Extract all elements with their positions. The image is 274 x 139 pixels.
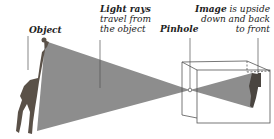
light-rays-label-1: Light rays (100, 4, 151, 14)
pinhole-camera-diagram: Object Light rays travel from the object… (0, 0, 274, 139)
image-label-1: Image is upside (195, 4, 270, 14)
image-label-rest: is upside (227, 4, 270, 14)
image-label-bold: Image (195, 4, 227, 14)
pinhole-icon (188, 88, 192, 92)
object-label: Object (29, 25, 62, 35)
image-label-3: to front (236, 24, 270, 34)
light-rays-label-2: travel from (100, 14, 151, 24)
light-rays-incoming (37, 41, 190, 131)
light-rays-label-3: the object (100, 24, 146, 34)
image-label-2: down and back (201, 14, 270, 24)
light-rays-projected (190, 73, 252, 108)
pinhole-label: Pinhole (160, 24, 198, 34)
inverted-giraffe-image-icon (249, 73, 261, 108)
